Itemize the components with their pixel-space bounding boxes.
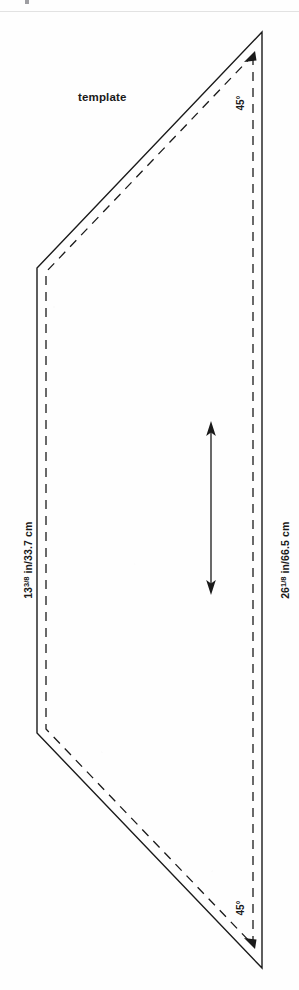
- angle-label-bottom: 45°: [236, 879, 246, 937]
- pattern-diagram: [0, 0, 299, 990]
- right-dimension-whole: 26: [279, 587, 291, 599]
- right-dimension-unit: in/66.5 cm: [279, 522, 291, 577]
- angle-label-top: 45°: [236, 74, 246, 132]
- angle-indicator-bottom-icon: [244, 938, 257, 949]
- left-dimension-whole: 13: [22, 587, 34, 599]
- template-label: template: [78, 92, 127, 104]
- grainline-arrow: [206, 421, 216, 595]
- left-dimension-fraction: 3/8: [22, 576, 31, 587]
- right-dimension-fraction: 1/8: [279, 576, 288, 587]
- cutting-line: [37, 32, 262, 968]
- left-dimension-label: 133/8 in/33.7 cm: [23, 490, 34, 630]
- right-dimension-label: 261/8 in/66.5 cm: [280, 490, 291, 630]
- seam-line: [46, 55, 253, 945]
- angle-indicator-top-icon: [244, 51, 257, 62]
- left-dimension-unit: in/33.7 cm: [22, 522, 34, 577]
- pattern-sheet: template 133/8 in/33.7 cm 261/8 in/66.5 …: [0, 0, 299, 990]
